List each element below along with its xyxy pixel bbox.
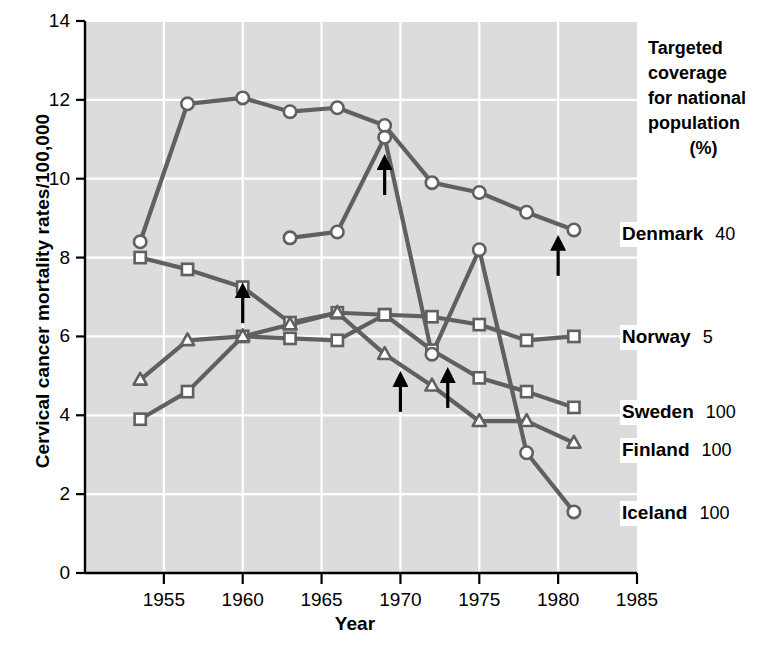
marker-square-sweden <box>568 402 579 413</box>
legend-item-denmark: Denmark 40 <box>620 222 738 247</box>
legend-label-denmark: Denmark <box>622 223 703 245</box>
marker-circle-denmark <box>568 224 580 236</box>
legend-item-iceland: Iceland 100 <box>620 501 733 526</box>
marker-circle-denmark <box>134 236 146 248</box>
legend-item-sweden: Sweden 100 <box>620 400 739 425</box>
marker-circle-iceland <box>568 506 580 518</box>
marker-circle-denmark <box>237 92 249 104</box>
legend-value-sweden: 100 <box>706 402 736 423</box>
legend-label-sweden: Sweden <box>622 401 694 423</box>
marker-circle-denmark <box>181 98 193 110</box>
y-tick-label: 4 <box>59 404 70 425</box>
legend-header-line-1: coverage <box>648 61 777 86</box>
y-axis-title: Cervical cancer mortality rates/100,000 <box>32 51 54 531</box>
marker-circle-denmark <box>331 102 343 114</box>
marker-square-norway <box>521 335 532 346</box>
x-axis-title: Year <box>290 613 420 635</box>
legend-header-units: (%) <box>648 136 777 161</box>
marker-square-sweden <box>332 335 343 346</box>
legend-header-line-3: population <box>648 111 777 136</box>
x-tick-label: 1955 <box>143 589 185 610</box>
marker-circle-iceland <box>284 232 296 244</box>
y-tick-label: 0 <box>59 562 70 583</box>
legend-header-line-2: for national <box>648 86 777 111</box>
legend-value-denmark: 40 <box>715 224 735 245</box>
x-tick-label: 1960 <box>222 589 264 610</box>
marker-circle-iceland <box>473 243 485 255</box>
marker-square-sweden <box>182 386 193 397</box>
legend-value-finland: 100 <box>702 440 732 461</box>
y-tick-label: 6 <box>59 325 70 346</box>
chart-figure: 024681012141955196019651970197519801985 … <box>0 0 777 653</box>
legend-label-finland: Finland <box>622 439 690 461</box>
marker-square-norway <box>237 282 248 293</box>
x-tick-label: 1985 <box>616 589 658 610</box>
marker-circle-iceland <box>378 131 390 143</box>
marker-circle-denmark <box>520 206 532 218</box>
marker-square-sweden <box>379 309 390 320</box>
y-tick-label: 14 <box>49 10 71 31</box>
legend-item-finland: Finland 100 <box>620 438 735 463</box>
marker-square-norway <box>568 331 579 342</box>
marker-circle-denmark <box>284 105 296 117</box>
marker-square-sweden <box>284 333 295 344</box>
y-tick-label: 8 <box>59 247 70 268</box>
legend-header: Targeted coverage for national populatio… <box>648 36 777 161</box>
x-tick-label: 1970 <box>379 589 421 610</box>
y-tick-label: 2 <box>59 483 70 504</box>
marker-square-norway <box>182 264 193 275</box>
marker-circle-iceland <box>331 226 343 238</box>
x-tick-label: 1975 <box>458 589 500 610</box>
marker-square-norway <box>426 311 437 322</box>
x-tick-label: 1980 <box>537 589 579 610</box>
legend-label-norway: Norway <box>622 326 691 348</box>
marker-square-sweden <box>474 372 485 383</box>
marker-square-sweden <box>135 414 146 425</box>
legend-value-norway: 5 <box>703 327 713 348</box>
marker-circle-denmark <box>473 186 485 198</box>
legend-header-line-0: Targeted <box>648 36 777 61</box>
marker-square-norway <box>474 319 485 330</box>
marker-circle-iceland <box>520 447 532 459</box>
legend-label-iceland: Iceland <box>622 502 687 524</box>
x-tick-label: 1965 <box>300 589 342 610</box>
marker-square-norway <box>135 252 146 263</box>
marker-square-sweden <box>521 386 532 397</box>
legend-item-norway: Norway 5 <box>620 325 716 350</box>
legend-value-iceland: 100 <box>699 503 729 524</box>
marker-circle-iceland <box>426 348 438 360</box>
marker-circle-denmark <box>426 176 438 188</box>
